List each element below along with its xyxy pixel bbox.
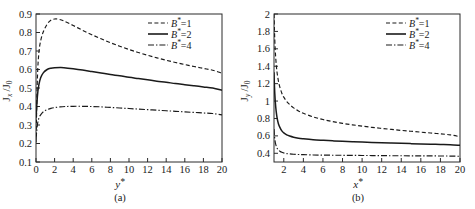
x-tick-label: 14 <box>396 164 407 175</box>
legend-label: B*=4 <box>171 37 192 51</box>
x-tick-label: 10 <box>124 164 135 175</box>
data-series-line <box>36 19 222 143</box>
x-tick-label: 20 <box>455 164 466 175</box>
y-tick-label: 2 <box>265 9 270 20</box>
y-tick-label: 0.6 <box>257 130 270 141</box>
x-tick-label: 4 <box>71 164 77 175</box>
panel-caption-a: (a) <box>100 192 140 203</box>
y-tick-label: 0.3 <box>19 120 32 131</box>
y-tick-label: 1.6 <box>257 43 270 54</box>
x-tick-label: 18 <box>435 164 446 175</box>
data-series-line <box>36 106 222 139</box>
y-tick-label: 0.8 <box>19 27 32 38</box>
x-tick-label: 18 <box>198 164 209 175</box>
data-series-line <box>274 72 460 145</box>
y-tick-label: 1.4 <box>257 61 271 72</box>
y-axis-label-b: Jy /J0 <box>238 68 252 114</box>
y-tick-label: 0.9 <box>19 9 32 20</box>
data-series-line <box>36 67 222 118</box>
x-tick-label: 6 <box>320 164 325 175</box>
x-tick-label: 12 <box>376 164 387 175</box>
chart-panel-b: 24681012141618200.40.60.811.21.41.61.82B… <box>238 0 475 209</box>
x-tick-label: 12 <box>142 164 153 175</box>
y-tick-label: 1 <box>265 96 270 107</box>
y-tick-label: 0.5 <box>19 83 32 94</box>
x-tick-label: 8 <box>340 164 345 175</box>
y-tick-label: 1.2 <box>257 78 270 89</box>
panel-caption-b: (b) <box>338 192 378 203</box>
legend-label: B*=2 <box>409 26 430 40</box>
y-tick-label: 0.1 <box>19 157 32 168</box>
x-tick-label: 2 <box>281 164 286 175</box>
y-tick-label: 0.8 <box>257 113 270 124</box>
legend-label: B*=4 <box>409 37 430 51</box>
y-tick-label: 0.4 <box>257 148 271 159</box>
x-tick-label: 16 <box>180 164 191 175</box>
x-tick-label: 8 <box>108 164 113 175</box>
x-tick-label: 0 <box>33 164 38 175</box>
chart-legend: B*=1B*=2B*=4 <box>148 15 192 51</box>
x-tick-label: 14 <box>161 164 172 175</box>
x-tick-label: 10 <box>357 164 368 175</box>
chart-legend: B*=1B*=2B*=4 <box>386 15 430 51</box>
legend-label: B*=1 <box>171 15 192 29</box>
y-tick-label: 0.7 <box>19 46 32 57</box>
x-axis-label-b: x* <box>338 177 378 190</box>
x-tick-label: 16 <box>416 164 427 175</box>
legend-label: B*=2 <box>171 26 192 40</box>
y-tick-label: 1.8 <box>257 26 270 37</box>
y-tick-label: 0.6 <box>19 64 32 75</box>
x-tick-label: 4 <box>301 164 307 175</box>
figure-container: 024681012141618200.10.20.30.40.50.60.70.… <box>0 0 475 209</box>
x-axis-label-a: y* <box>100 177 140 190</box>
x-tick-label: 6 <box>89 164 94 175</box>
x-tick-label: 20 <box>217 164 228 175</box>
y-tick-label: 0.2 <box>19 138 32 149</box>
y-axis-label-a: Jx /J0 <box>0 68 14 114</box>
data-series-line <box>274 14 460 137</box>
legend-label: B*=1 <box>409 15 430 29</box>
chart-panel-a: 024681012141618200.10.20.30.40.50.60.70.… <box>0 0 237 209</box>
y-tick-label: 0.4 <box>19 101 33 112</box>
x-tick-label: 2 <box>52 164 57 175</box>
